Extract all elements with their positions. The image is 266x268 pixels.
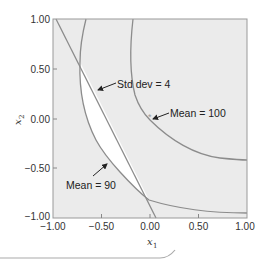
y-tick-label: −0.50 <box>25 163 51 174</box>
figure-border <box>0 250 175 258</box>
x-axis-label: x 1 <box>147 236 157 250</box>
svg-text:1: 1 <box>153 242 157 250</box>
optimum-marker: * <box>148 112 152 122</box>
y-tick-label: 1.00 <box>31 14 51 25</box>
x-tick-label: 1.00 <box>235 221 255 232</box>
y-tick-label: 0.50 <box>31 64 51 75</box>
x-tick-label: 0.50 <box>189 221 209 232</box>
x-tick-label: −0.50 <box>89 221 115 232</box>
svg-text:2: 2 <box>18 115 26 119</box>
x-tick-label: 0.00 <box>140 221 160 232</box>
mean-90-label: Mean = 90 <box>66 179 116 191</box>
std-dev-label: Std dev = 4 <box>117 78 171 90</box>
chart: 1.00 0.50 0.00 −0.50 −1.00 −1.00 −0.50 0… <box>0 0 266 268</box>
x-tick-label: −1.00 <box>40 221 66 232</box>
y-axis-label: x 2 <box>12 115 26 125</box>
mean-100-label: Mean = 100 <box>170 107 226 119</box>
y-tick-label: 0.00 <box>31 114 51 125</box>
